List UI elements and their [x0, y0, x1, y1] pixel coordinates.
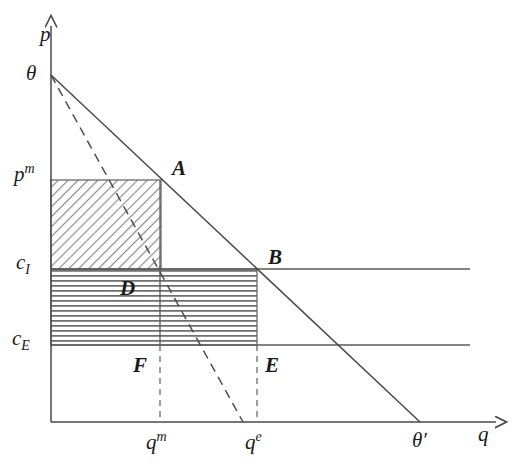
x-axis-label: q — [478, 424, 489, 445]
entrant-cost-region — [51, 269, 257, 345]
diagram-canvas — [0, 0, 518, 464]
y-tick-label-c-I: cI — [16, 252, 30, 277]
x-tick-label-q-m: qm — [146, 430, 167, 453]
monopoly-profit-region — [51, 180, 161, 269]
economics-diagram: p q θ pm cI cE qm qe θ′ A B D F E — [0, 0, 518, 464]
y-tick-sub-c-E: E — [21, 338, 30, 353]
y-tick-sub-c-I: I — [25, 262, 30, 277]
y-tick-sup-p-m: m — [25, 161, 35, 176]
point-label-F: F — [133, 355, 147, 376]
y-tick-label-c-E: cE — [12, 328, 30, 353]
point-label-E: E — [265, 355, 279, 376]
point-label-A: A — [172, 158, 186, 179]
x-tick-base-q-m: q — [146, 430, 157, 454]
y-tick-base-p-m: p — [14, 162, 25, 186]
point-label-B: B — [268, 247, 282, 268]
x-tick-label-theta-prime: θ′ — [412, 430, 427, 451]
x-tick-sup-q-m: m — [157, 429, 167, 444]
theta-intercept-label: θ — [26, 63, 36, 84]
y-axis-label: p — [40, 24, 51, 45]
point-label-D: D — [120, 278, 135, 299]
x-tick-base-theta-prime: θ — [412, 428, 422, 452]
x-tick-label-q-e: qe — [245, 430, 262, 453]
x-tick-sup-theta-prime: ′ — [422, 428, 427, 452]
x-tick-sup-q-e: e — [256, 429, 262, 444]
y-tick-base-c-I: c — [16, 250, 25, 274]
y-tick-label-p-m: pm — [14, 162, 35, 185]
y-tick-base-c-E: c — [12, 326, 21, 350]
x-tick-base-q-e: q — [245, 430, 256, 454]
